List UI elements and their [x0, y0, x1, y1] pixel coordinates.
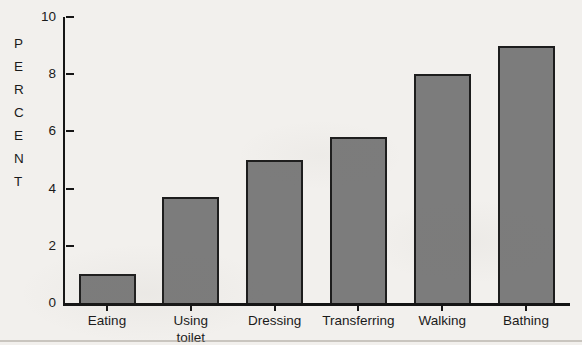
bar	[498, 46, 555, 303]
bar	[330, 137, 387, 303]
x-tick-mark	[274, 306, 276, 311]
y-tick-label: 4	[0, 181, 56, 197]
x-tick-mark	[525, 306, 527, 311]
x-axis-line	[63, 303, 570, 306]
x-axis-label: Dressing	[248, 312, 301, 329]
y-tick-mark	[66, 245, 74, 247]
y-axis-title-letter: C	[14, 101, 24, 124]
y-tick-mark	[66, 130, 74, 132]
y-tick-label: 6	[0, 123, 56, 139]
y-tick-label: 8	[0, 66, 56, 82]
bar	[414, 74, 471, 303]
x-tick-mark	[357, 306, 359, 311]
y-tick-mark	[66, 73, 74, 75]
y-tick-label: 0	[0, 295, 56, 311]
y-axis-line	[63, 17, 65, 306]
y-tick-mark	[66, 188, 74, 190]
bar	[162, 197, 219, 303]
bar	[79, 274, 136, 303]
bar	[246, 160, 303, 303]
x-axis-label: Transferring	[322, 312, 394, 329]
y-tick-mark	[66, 16, 74, 18]
x-tick-mark	[441, 306, 443, 311]
y-tick-label: 10	[0, 9, 56, 25]
bar-chart: PERCENT 0246810 EatingUsingtoiletDressin…	[0, 0, 582, 345]
x-axis-label: Bathing	[503, 312, 549, 329]
scan-artifact-line	[0, 340, 582, 342]
y-axis-title-letter: N	[14, 147, 24, 170]
y-axis-title: PERCENT	[14, 32, 24, 193]
y-tick-label: 2	[0, 238, 56, 254]
x-tick-mark	[190, 306, 192, 311]
x-axis-label: Walking	[418, 312, 466, 329]
y-axis-title-letter: P	[14, 32, 24, 55]
x-axis-label: Eating	[88, 312, 126, 329]
x-tick-mark	[106, 306, 108, 311]
